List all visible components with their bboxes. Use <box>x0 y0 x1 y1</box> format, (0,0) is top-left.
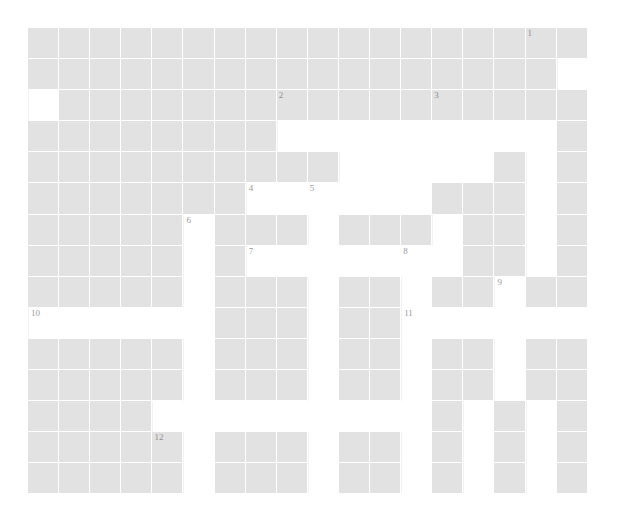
crossword-open-cell[interactable] <box>432 152 463 183</box>
crossword-open-cell[interactable] <box>526 401 557 432</box>
crossword-open-cell[interactable] <box>308 339 339 370</box>
crossword-block-cell <box>121 215 152 246</box>
crossword-open-cell[interactable] <box>183 370 214 401</box>
crossword-open-cell[interactable] <box>494 370 525 401</box>
crossword-open-cell[interactable] <box>463 401 494 432</box>
crossword-open-cell[interactable] <box>370 246 401 277</box>
crossword-open-cell[interactable] <box>246 401 277 432</box>
crossword-open-cell[interactable] <box>59 308 90 339</box>
crossword-open-cell[interactable] <box>401 432 432 463</box>
crossword-open-cell[interactable] <box>308 463 339 494</box>
crossword-open-cell[interactable] <box>401 339 432 370</box>
crossword-open-cell[interactable] <box>463 308 494 339</box>
crossword-open-cell[interactable] <box>339 401 370 432</box>
crossword-open-cell[interactable]: 5 <box>308 183 339 214</box>
crossword-open-cell[interactable] <box>121 308 152 339</box>
crossword-open-cell[interactable] <box>432 121 463 152</box>
crossword-open-cell[interactable]: 10 <box>28 308 59 339</box>
crossword-open-cell[interactable] <box>401 463 432 494</box>
crossword-open-cell[interactable] <box>463 463 494 494</box>
crossword-open-cell[interactable] <box>432 246 463 277</box>
crossword-clue-number: 5 <box>310 183 315 194</box>
crossword-grid[interactable]: 123456789101112 <box>28 28 588 495</box>
crossword-open-cell[interactable] <box>183 277 214 308</box>
crossword-open-cell[interactable] <box>526 183 557 214</box>
crossword-block-cell <box>121 59 152 90</box>
crossword-open-cell[interactable] <box>183 246 214 277</box>
crossword-open-cell[interactable] <box>401 401 432 432</box>
crossword-open-cell[interactable] <box>90 308 121 339</box>
crossword-open-cell[interactable] <box>557 308 588 339</box>
crossword-open-cell[interactable] <box>401 121 432 152</box>
crossword-open-cell[interactable] <box>277 183 308 214</box>
crossword-open-cell[interactable] <box>526 308 557 339</box>
crossword-open-cell[interactable]: 9 <box>494 277 525 308</box>
crossword-open-cell[interactable] <box>463 121 494 152</box>
crossword-open-cell[interactable]: 11 <box>401 308 432 339</box>
crossword-open-cell[interactable] <box>339 183 370 214</box>
crossword-open-cell[interactable] <box>526 152 557 183</box>
crossword-open-cell[interactable] <box>557 59 588 90</box>
crossword-open-cell[interactable] <box>370 121 401 152</box>
crossword-block-cell <box>432 183 463 214</box>
crossword-block-cell <box>277 28 308 59</box>
crossword-open-cell[interactable] <box>183 339 214 370</box>
crossword-open-cell[interactable] <box>370 401 401 432</box>
crossword-open-cell[interactable] <box>183 463 214 494</box>
crossword-open-cell[interactable] <box>152 308 183 339</box>
crossword-open-cell[interactable] <box>432 215 463 246</box>
crossword-open-cell[interactable] <box>463 152 494 183</box>
crossword-open-cell[interactable] <box>308 277 339 308</box>
crossword-open-cell[interactable] <box>494 308 525 339</box>
crossword-open-cell[interactable] <box>339 121 370 152</box>
crossword-open-cell[interactable] <box>215 401 246 432</box>
crossword-block-cell <box>246 90 277 121</box>
crossword-open-cell[interactable] <box>183 432 214 463</box>
crossword-open-cell[interactable] <box>526 215 557 246</box>
crossword-open-cell[interactable] <box>308 401 339 432</box>
crossword-block-cell <box>59 215 90 246</box>
crossword-open-cell[interactable]: 4 <box>246 183 277 214</box>
crossword-clue-number: 2 <box>279 90 284 101</box>
crossword-block-cell <box>339 339 370 370</box>
crossword-open-cell[interactable] <box>308 121 339 152</box>
crossword-block-cell <box>90 277 121 308</box>
crossword-open-cell[interactable] <box>152 401 183 432</box>
crossword-open-cell[interactable] <box>432 308 463 339</box>
crossword-open-cell[interactable] <box>463 432 494 463</box>
crossword-block-cell <box>339 432 370 463</box>
crossword-open-cell[interactable]: 6 <box>183 215 214 246</box>
crossword-open-cell[interactable] <box>494 121 525 152</box>
crossword-open-cell[interactable] <box>401 152 432 183</box>
crossword-open-cell[interactable] <box>526 121 557 152</box>
crossword-open-cell[interactable] <box>339 246 370 277</box>
crossword-open-cell[interactable] <box>308 370 339 401</box>
crossword-open-cell[interactable] <box>183 308 214 339</box>
crossword-open-cell[interactable] <box>370 152 401 183</box>
crossword-open-cell[interactable] <box>28 90 59 121</box>
crossword-open-cell[interactable] <box>339 152 370 183</box>
crossword-open-cell[interactable] <box>526 432 557 463</box>
crossword-open-cell[interactable] <box>308 215 339 246</box>
crossword-open-cell[interactable] <box>277 401 308 432</box>
crossword-open-cell[interactable] <box>401 183 432 214</box>
crossword-open-cell[interactable] <box>370 183 401 214</box>
crossword-open-cell[interactable] <box>277 121 308 152</box>
crossword-open-cell[interactable] <box>401 370 432 401</box>
crossword-block-cell <box>370 370 401 401</box>
crossword-block-cell <box>215 370 246 401</box>
crossword-open-cell[interactable]: 8 <box>401 246 432 277</box>
crossword-open-cell[interactable] <box>401 277 432 308</box>
crossword-open-cell[interactable] <box>526 246 557 277</box>
crossword-open-cell[interactable] <box>183 401 214 432</box>
crossword-open-cell[interactable] <box>494 339 525 370</box>
crossword-open-cell[interactable] <box>526 463 557 494</box>
crossword-open-cell[interactable]: 7 <box>246 246 277 277</box>
crossword-block-cell <box>526 90 557 121</box>
crossword-block-cell <box>246 432 277 463</box>
crossword-block-cell <box>90 246 121 277</box>
crossword-open-cell[interactable] <box>308 308 339 339</box>
crossword-open-cell[interactable] <box>277 246 308 277</box>
crossword-open-cell[interactable] <box>308 246 339 277</box>
crossword-open-cell[interactable] <box>308 432 339 463</box>
